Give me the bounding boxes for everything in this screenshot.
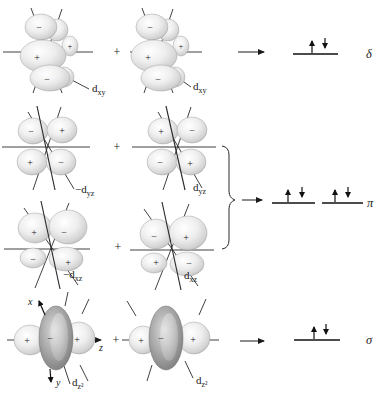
orbital-label: dxy (92, 82, 106, 97)
orbital-dxz-right: − + + − dxz (130, 202, 214, 290)
nodal-line (65, 292, 68, 306)
orbital-overlap-diagram: − + + − dxy + − + + − dxy (0, 0, 381, 396)
lobe-sign: + (68, 41, 73, 51)
orbital-label: dz² (196, 374, 208, 389)
orbital-label: dz² (72, 376, 84, 391)
nodal-line (127, 301, 136, 316)
lobe-sign: − (147, 22, 153, 33)
lobe-sign: − (155, 74, 161, 85)
lobe-sign: + (34, 52, 40, 63)
orbital-label: −dyz (75, 183, 95, 198)
orbital-dz2-left: x y z + − + dz² (7, 292, 103, 391)
nodal-line (37, 106, 55, 190)
lobe-sign: − (61, 227, 67, 238)
lobe-sign: − (158, 333, 164, 344)
lobe-sign: − (186, 258, 192, 269)
orbital-dxy-right: − + + − dxy (130, 8, 207, 95)
nodal-line (199, 299, 206, 315)
row-delta: − + + − dxy + − + + − dxy (3, 8, 372, 97)
nodal-line (166, 106, 185, 190)
orbital-dyz-right: + − − + dyz (132, 106, 216, 196)
lobe-sign: + (190, 334, 196, 345)
lobe-sign: + (138, 335, 144, 346)
nodal-line (64, 366, 70, 384)
energy-level-sigma (294, 324, 340, 340)
lobe-sign: + (24, 335, 30, 346)
lobe-sign: − (58, 157, 64, 168)
lobe-sign: − (157, 157, 163, 168)
lobe-sign: − (30, 254, 36, 265)
lobe (49, 210, 87, 244)
bond-label-delta: δ (366, 47, 372, 61)
x-axis-label: x (27, 296, 33, 307)
lobe-sign: − (151, 231, 157, 242)
energy-level-delta (293, 38, 338, 54)
nodal-line (185, 361, 193, 378)
y-axis-label: y (55, 377, 61, 388)
lobe-sign: − (44, 74, 50, 85)
plus-operator: + (114, 45, 121, 59)
nodal-line (147, 365, 152, 381)
lobe-sign: − (28, 126, 34, 137)
grouping-brace (222, 146, 235, 249)
plus-operator: + (114, 140, 121, 154)
lobe-sign: − (189, 125, 195, 136)
nodal-line (80, 365, 88, 381)
z-axis-label: z (98, 342, 103, 353)
y-axis-arrow (50, 369, 51, 382)
lobe-sign: + (65, 257, 71, 268)
energy-level-pi-1 (272, 187, 315, 203)
lobe-sign: − (36, 22, 42, 33)
lobe-sign: + (27, 157, 33, 168)
orbital-dz2-right: + − + dz² (122, 299, 219, 389)
orbital-label: −dxz (63, 268, 83, 283)
x-axis-arrow (39, 301, 45, 315)
lobe-sign: − (47, 333, 53, 344)
plus-operator: + (113, 333, 120, 347)
orbital-dyz-left: − + + − −dyz (2, 106, 95, 198)
plus-operator: + (115, 240, 122, 254)
bond-label-pi: π (367, 196, 374, 210)
lobe-sign: + (187, 158, 193, 169)
lobe-sign: + (153, 257, 159, 268)
lobe-sign: + (183, 232, 189, 243)
lobe-sign: + (158, 126, 164, 137)
nodal-line (82, 299, 89, 314)
bond-label-sigma: σ (366, 333, 373, 347)
figure-canvas: − + + − dxy + − + + − dxy (0, 0, 381, 396)
lobe-sign: + (179, 41, 184, 51)
orbital-dxy-left: − + + − dxy (3, 8, 106, 97)
lobe (141, 65, 181, 91)
energy-level-pi-2 (322, 187, 363, 203)
lobe-sign: + (31, 227, 37, 238)
lobe (30, 65, 70, 91)
orbital-label: dxy (193, 80, 207, 95)
row-sigma: x y z + − + dz² + + − + dz² (7, 292, 373, 391)
orbital-dxz-left: + − − + −dxz (4, 201, 90, 289)
lobe-sign: + (74, 334, 80, 345)
lobe-sign: + (145, 52, 151, 63)
lobe-sign: + (59, 125, 65, 136)
row-pi-dyz: − + + − −dyz + + − − + dyz (2, 106, 216, 198)
